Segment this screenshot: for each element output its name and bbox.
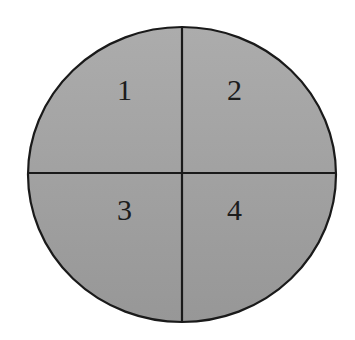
quadrant-label-1: 1 xyxy=(117,73,132,106)
quadrant-circle-diagram: 1 2 3 4 xyxy=(0,0,355,340)
quadrant-label-2: 2 xyxy=(227,73,242,106)
quadrant-label-4: 4 xyxy=(227,193,242,226)
quadrant-label-3: 3 xyxy=(117,193,132,226)
